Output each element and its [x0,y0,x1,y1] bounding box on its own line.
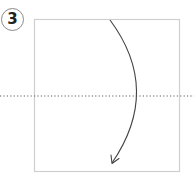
fold-diagram [0,0,194,184]
paper-square [35,20,180,172]
